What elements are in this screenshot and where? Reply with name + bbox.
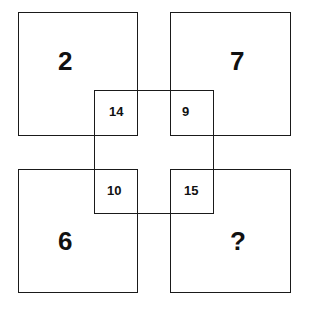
corner-value-bottom-left: 6 — [58, 226, 72, 257]
overlap-value-top-left: 14 — [109, 104, 123, 119]
overlap-value-top-right: 9 — [182, 104, 189, 119]
corner-value-top-left: 2 — [58, 46, 72, 77]
overlap-value-bottom-left: 10 — [107, 183, 121, 198]
corner-value-bottom-right: ? — [230, 226, 246, 257]
corner-value-top-right: 7 — [230, 46, 244, 77]
overlap-value-bottom-right: 15 — [184, 183, 198, 198]
